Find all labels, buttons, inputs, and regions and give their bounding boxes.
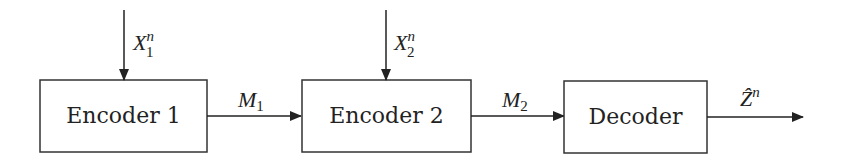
edge-m1-label: M1: [237, 87, 264, 114]
edge-m2-label: M2: [501, 87, 528, 114]
input-x2-arrow: Xn2: [386, 10, 415, 80]
output-zhat-label: Ẑn: [740, 84, 760, 111]
edge-m2-arrow: M2: [471, 87, 564, 116]
output-zhat-arrow: Ẑn: [707, 84, 803, 117]
block-diagram: Encoder 1 Xn1 M1 Encoder 2 Xn2 M2 Deco: [0, 0, 847, 163]
input-x2-label: Xn2: [393, 28, 415, 60]
encoder2-block: Encoder 2: [302, 80, 471, 152]
decoder-block: Decoder: [564, 81, 707, 153]
encoder1-label: Encoder 1: [66, 103, 180, 128]
encoder1-block: Encoder 1: [40, 80, 207, 152]
edge-m1-arrow: M1: [207, 87, 301, 116]
input-x1-arrow: Xn1: [124, 10, 154, 80]
input-x1-label: Xn1: [132, 28, 154, 60]
encoder2-label: Encoder 2: [329, 103, 443, 128]
decoder-label: Decoder: [589, 104, 683, 129]
